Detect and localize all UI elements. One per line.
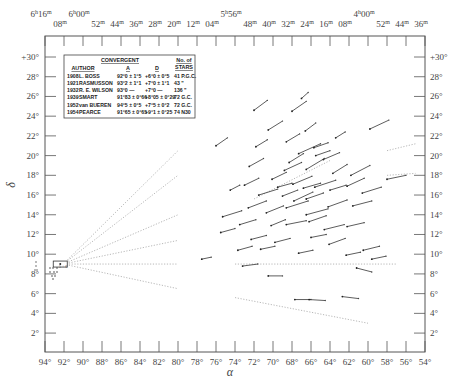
y-tick-label: 22° [26,131,39,141]
y-tick-label-right: 28° [430,72,443,82]
x-tick-label: 76° [210,357,223,367]
y-tick-label: 10° [26,249,39,259]
svg-text:+7°0 —: +7°0 — [145,87,163,93]
x-top-tick-label: 6h00m [68,9,90,19]
convergent-table: CONVERGENTAUTHORADNo. ofSTARS1908L. BOSS… [64,55,197,118]
x-tick-label: 68° [286,357,299,367]
x-top-tick-label: 36m [414,19,428,29]
convergent-estimates-cluster: 5 + 6 [34,261,67,280]
svg-text:R. E. WILSON: R. E. WILSON [79,87,113,93]
y-axis-tick-labels-left: 2°4°6°8°10°12°14°16°18°20°22°24°26°28°+3… [21,52,39,338]
y-tick-label-right: 10° [430,249,443,259]
x-axis-tick-labels-top: 6h16m08m6h00m52m44m36m28m20m12m04m5h56m4… [30,9,428,29]
y-tick-label-right: 8° [430,269,439,279]
x-top-tick-label: 48m [243,19,257,29]
x-tick-label: 88° [96,357,109,367]
x-axis-tick-labels-bottom: 94°92°90°88°86°84°82°80°78°76°74°72°70°6… [39,357,432,367]
x-tick-label: 60° [362,357,375,367]
svg-text:SMART: SMART [79,94,98,100]
svg-text:93°2 ± 1°1: 93°2 ± 1°1 [117,80,141,86]
svg-text:PEARCE: PEARCE [79,109,101,115]
x-tick-label: 72° [248,357,261,367]
x-top-tick-label: 08m [338,19,352,29]
x-tick-label: 78° [191,357,204,367]
x-tick-label: 56° [400,357,413,367]
x-top-tick-label: 24m [300,19,314,29]
x-tick-label: 62° [343,357,356,367]
svg-text:136 ": 136 " [174,87,187,93]
x-tick-label: 84° [134,357,147,367]
svg-text:93°0 —: 93°0 — [117,87,135,93]
x-tick-label: 86° [115,357,128,367]
x-tick-label: 92° [58,357,71,367]
y-tick-label-right: +30° [430,52,448,62]
y-tick-label-right: 4° [430,308,439,318]
svg-text:D: D [155,65,159,71]
x-top-tick-label: 08m [53,19,67,29]
x-top-tick-label: 6h16m [30,9,52,19]
svg-text:+6°0 ± 0°5: +6°0 ± 0°5 [145,73,170,79]
x-tick-label: 64° [324,357,337,367]
y-tick-label: 12° [26,229,39,239]
y-tick-label-right: 2° [430,328,439,338]
x-top-tick-label: 4h00m [353,9,375,19]
x-top-tick-label: 04m [205,19,219,29]
y-tick-label: 24° [26,111,39,121]
y-tick-label: 16° [26,190,39,200]
proper-motion-vectors [201,92,407,301]
x-tick-label: 70° [267,357,280,367]
svg-text:+8°05 ± 0°29: +8°05 ± 0°29 [145,94,175,100]
x-tick-label: 80° [172,357,185,367]
svg-text:RASMUSSON: RASMUSSON [79,80,113,86]
x-top-tick-label: 52m [376,19,390,29]
svg-text:1939: 1939 [67,94,79,100]
svg-text:41 P.G.C.: 41 P.G.C. [174,73,197,79]
x-tick-label: 58° [381,357,394,367]
y-tick-label-right: 20° [430,151,443,161]
svg-text:74 N30: 74 N30 [174,109,191,115]
svg-text:van BUEREN: van BUEREN [79,102,112,108]
convergence-lines [63,151,178,289]
x-top-tick-label: 20m [167,19,181,29]
y-tick-label-right: 16° [430,190,443,200]
proper-motion-chart: 94°92°90°88°86°84°82°80°78°76°74°72°70°6… [0,0,454,390]
extended-lines [235,144,416,323]
x-tick-label: 54° [419,357,432,367]
y-axis-tick-labels-right: 2°4°6°8°10°12°14°16°18°20°22°24°26°28°+3… [430,52,448,338]
y-tick-label-right: 24° [430,111,443,121]
svg-text:91°83 ± 0°66: 91°83 ± 0°66 [117,94,147,100]
y-tick-label: 4° [31,308,40,318]
y-tick-label-right: 14° [430,210,443,220]
x-top-tick-label: 32m [281,19,295,29]
svg-text:43 ": 43 " [174,80,184,86]
svg-text:1952: 1952 [67,102,79,108]
x-top-tick-label: 40m [262,19,276,29]
x-top-tick-label: 44m [110,19,124,29]
x-tick-label: 94° [39,357,52,367]
svg-text:5 + 6: 5 + 6 [59,264,67,269]
svg-text:AUTHOR: AUTHOR [71,65,94,71]
x-top-tick-label: 52m [91,19,105,29]
svg-text:L. BOSS: L. BOSS [79,73,100,79]
svg-text:72 G.C.: 72 G.C. [174,102,192,108]
svg-text:CONVERGENT: CONVERGENT [101,57,140,63]
y-tick-label-right: 6° [430,289,439,299]
x-top-tick-label: 36m [129,19,143,29]
svg-text:92°0 ± 1°5: 92°0 ± 1°5 [117,73,141,79]
y-tick-label: 14° [26,210,39,220]
y-tick-label: 18° [26,170,39,180]
y-tick-label: +30° [21,52,39,62]
svg-text:+9°1 ± 0°25: +9°1 ± 0°25 [145,109,172,115]
svg-text:+7°5 ± 0°2: +7°5 ± 0°2 [145,102,170,108]
svg-text:A: A [126,65,130,71]
svg-text:No. of: No. of [176,57,191,63]
y-tick-label: 26° [26,91,39,101]
svg-text:94°5 ± 0°5: 94°5 ± 0°5 [117,102,141,108]
x-top-tick-label: 28m [148,19,162,29]
x-axis-title: α [227,365,234,379]
x-tick-label: 66° [305,357,318,367]
svg-text:1908: 1908 [67,73,79,79]
x-tick-label: 82° [153,357,166,367]
y-tick-label: 6° [31,289,40,299]
y-tick-label: 28° [26,72,39,82]
